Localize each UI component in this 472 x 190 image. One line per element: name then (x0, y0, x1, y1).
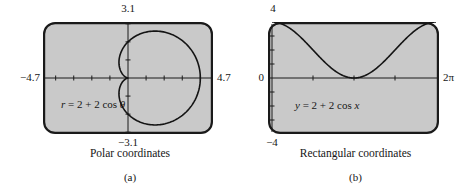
polar-equation-var: θ (120, 98, 125, 110)
polar-plot-canvas (43, 22, 213, 134)
rect-panel-tag: (b) (268, 171, 443, 183)
figure-polar-vs-rectangular: 3.1 −3.1 −4.7 4.7 r = 2 + 2 cos θ Polar … (0, 0, 472, 190)
polar-ymax-label: 3.1 (103, 2, 153, 14)
rect-equation-mid: = 2 + 2 cos (300, 99, 355, 111)
rect-equation: y = 2 + 2 cos x (295, 99, 359, 111)
polar-equation: r = 2 + 2 cos θ (61, 98, 125, 110)
polar-caption: Polar coordinates (43, 147, 217, 160)
rect-origin-label: 0 (246, 71, 264, 83)
rect-xmax-pi: π (449, 71, 455, 83)
polar-equation-mid: = 2 + 2 cos (65, 98, 120, 110)
rectangular-plot-canvas (268, 22, 439, 134)
rect-xmax-label: 2π (443, 71, 471, 83)
rect-caption: Rectangular coordinates (268, 147, 443, 160)
rect-equation-var: x (354, 99, 359, 111)
rect-ymax-label: 4 (262, 2, 284, 14)
polar-xmax-label: 4.7 (217, 71, 247, 83)
polar-xmin-label: −4.7 (10, 71, 40, 83)
polar-panel-tag: (a) (43, 171, 217, 183)
